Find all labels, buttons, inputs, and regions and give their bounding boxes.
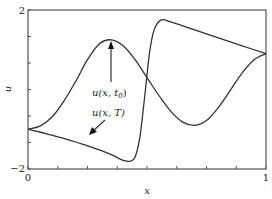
curve-u-x-t0 (28, 40, 266, 130)
x-tick-label-max: 1 (263, 172, 269, 183)
x-axis-label: x (144, 185, 150, 196)
x-tick-label-min: 0 (25, 172, 31, 183)
annotation-arrow-T (93, 120, 105, 131)
arrowhead-t0-icon (108, 41, 114, 49)
annotation-label-t0: u(x, t0) (92, 87, 127, 100)
annotation-label-T: u(x, T) (92, 107, 125, 118)
y-tick-label-max: 2 (19, 5, 25, 16)
line-chart: 0 1 −2 2 x u u(x, t0) u(x, T) (0, 0, 272, 199)
y-tick-label-min: −2 (10, 163, 25, 174)
y-axis-label: u (2, 86, 13, 92)
